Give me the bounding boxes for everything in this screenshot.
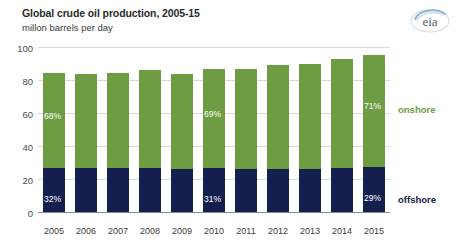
bar-group[interactable] <box>75 48 97 213</box>
bar-label-onshore: 68% <box>44 112 61 121</box>
y-axis-tick-label: 80 <box>3 76 33 87</box>
bar-group[interactable] <box>235 48 257 213</box>
page-title: Global crude oil production, 2005-15 <box>22 7 200 19</box>
bar-segment-onshore[interactable] <box>107 73 129 168</box>
bar-segment-offshore[interactable] <box>331 168 353 213</box>
x-axis-tick-label: 2009 <box>172 226 192 236</box>
y-axis-labels: 020406080100 <box>0 48 33 213</box>
x-axis-tick-label: 2011 <box>236 226 255 236</box>
x-axis-tick-label: 2015 <box>364 226 384 236</box>
bar-group[interactable]: 71%29% <box>363 48 385 213</box>
bar-group[interactable] <box>171 48 193 213</box>
bar-segment-onshore[interactable] <box>139 70 161 168</box>
bar-segment-onshore[interactable] <box>235 69 257 169</box>
y-axis-tick-label: 60 <box>3 109 33 120</box>
y-axis-tick-label: 40 <box>3 142 33 153</box>
x-axis-labels: 2005200620072008200920102011201220132014… <box>38 213 390 240</box>
bar-group[interactable] <box>331 48 353 213</box>
legend-item-offshore: offshore <box>398 194 436 205</box>
bar-segment-onshore[interactable] <box>299 64 321 169</box>
bar-segment-offshore[interactable] <box>43 168 65 213</box>
x-axis-tick-label: 2006 <box>76 226 96 236</box>
bar-label-onshore: 71% <box>364 102 381 111</box>
eia-logo-text: eia <box>422 14 437 29</box>
legend-item-onshore: onshore <box>398 103 435 114</box>
bar-group[interactable] <box>107 48 129 213</box>
x-axis-tick-label: 2014 <box>332 226 352 236</box>
bar-segment-onshore[interactable] <box>75 74 97 169</box>
x-axis-tick-label: 2013 <box>300 226 320 236</box>
bar-segment-onshore[interactable] <box>267 65 289 169</box>
x-axis-tick-label: 2007 <box>108 226 128 236</box>
bar-segment-offshore[interactable] <box>299 169 321 213</box>
bar-label-offshore: 32% <box>44 195 61 204</box>
plot-area: 68%32%69%31%71%29% <box>38 48 390 213</box>
bar-group[interactable]: 69%31% <box>203 48 225 213</box>
y-axis-tick-label: 100 <box>3 43 33 54</box>
y-axis-tick-label: 0 <box>3 208 33 219</box>
bar-segment-offshore[interactable] <box>267 169 289 213</box>
bar-group[interactable] <box>139 48 161 213</box>
bar-segment-offshore[interactable] <box>75 168 97 213</box>
x-axis-tick-label: 2005 <box>44 226 64 236</box>
eia-logo: eia <box>408 6 452 34</box>
chart-subtitle: millon barrels per day <box>22 22 113 33</box>
x-axis-tick-label: 2012 <box>268 226 288 236</box>
bar-segment-offshore[interactable] <box>363 167 385 213</box>
bar-segment-onshore[interactable] <box>171 74 193 170</box>
bar-segment-onshore[interactable] <box>331 59 353 168</box>
bar-group[interactable] <box>267 48 289 213</box>
bar-segment-offshore[interactable] <box>235 169 257 213</box>
bar-group[interactable] <box>299 48 321 213</box>
bar-segment-offshore[interactable] <box>203 168 225 213</box>
chart-figure: Global crude oil production, 2005-15 mil… <box>0 0 465 240</box>
bar-segment-offshore[interactable] <box>107 168 129 213</box>
bar-label-offshore: 29% <box>364 194 381 203</box>
y-axis-tick-label: 20 <box>3 175 33 186</box>
x-axis-tick-label: 2008 <box>140 226 160 236</box>
bar-label-onshore: 69% <box>204 110 221 119</box>
bar-segment-offshore[interactable] <box>171 169 193 213</box>
bar-group[interactable]: 68%32% <box>43 48 65 213</box>
x-axis-tick-label: 2010 <box>204 226 224 236</box>
bar-segment-offshore[interactable] <box>139 168 161 213</box>
bar-label-offshore: 31% <box>204 195 221 204</box>
